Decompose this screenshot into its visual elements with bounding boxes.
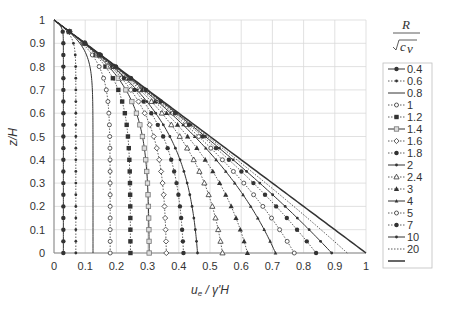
y-tick-label: 0.3 (30, 177, 45, 189)
x-tick-label: 0.2 (109, 260, 124, 272)
y-tick-label: 0.1 (30, 224, 45, 236)
chart: 00.10.20.30.40.50.60.70.80.9100.10.20.30… (0, 0, 449, 309)
x-tick-label: 0.8 (296, 260, 311, 272)
x-tick-label: 0 (51, 260, 57, 272)
y-tick-label: 0.7 (30, 84, 45, 96)
y-tick-label: 0.9 (30, 37, 45, 49)
legend-label: 20 (407, 243, 419, 255)
y-tick-label: 0.6 (30, 107, 45, 119)
x-tick-label: 0.9 (327, 260, 342, 272)
legend-label: 1.4 (407, 123, 422, 135)
x-tick-label: 0.4 (171, 260, 186, 272)
x-tick-label: 0.5 (202, 260, 217, 272)
legend-label: 0.8 (407, 87, 422, 99)
legend-label: 0.6 (407, 75, 422, 87)
y-tick-label: 0.4 (30, 154, 45, 166)
svg-text:c: c (400, 39, 406, 54)
legend-label: 2.4 (407, 171, 422, 183)
legend-label: 3 (407, 183, 413, 195)
y-axis-label: z/H (6, 128, 20, 147)
y-tick-label: 0.5 (30, 131, 45, 143)
legend-label: 4 (407, 195, 413, 207)
x-tick-label: 1 (363, 260, 369, 272)
y-tick-label: 0.8 (30, 61, 45, 73)
x-tick-label: 0.3 (140, 260, 155, 272)
legend-label: 1 (407, 99, 413, 111)
legend-label: 1.6 (407, 135, 422, 147)
x-tick-label: 0.6 (234, 260, 249, 272)
tick-labels: 00.10.20.30.40.50.60.70.80.9100.10.20.30… (30, 14, 369, 272)
legend-title: R c v (393, 17, 420, 56)
x-tick-label: 0.1 (78, 260, 93, 272)
legend-label: 5 (407, 207, 413, 219)
x-tick-label: 0.7 (265, 260, 280, 272)
x-axis-label: ue / γ'H (191, 283, 229, 298)
legend-label: 0.4 (407, 63, 422, 75)
svg-text:R: R (401, 17, 410, 32)
legend-label: 1.2 (407, 111, 422, 123)
legend-label: 10 (407, 231, 419, 243)
y-tick-label: 0 (39, 247, 45, 259)
legend-label: 2 (407, 159, 413, 171)
legend-label: 1.8 (407, 147, 422, 159)
y-tick-label: 0.2 (30, 200, 45, 212)
series-0.6 (54, 20, 77, 254)
y-tick-label: 1 (39, 14, 45, 26)
series-0.4 (54, 20, 66, 255)
svg-text:v: v (407, 41, 413, 56)
legend-label: 7 (407, 219, 413, 231)
